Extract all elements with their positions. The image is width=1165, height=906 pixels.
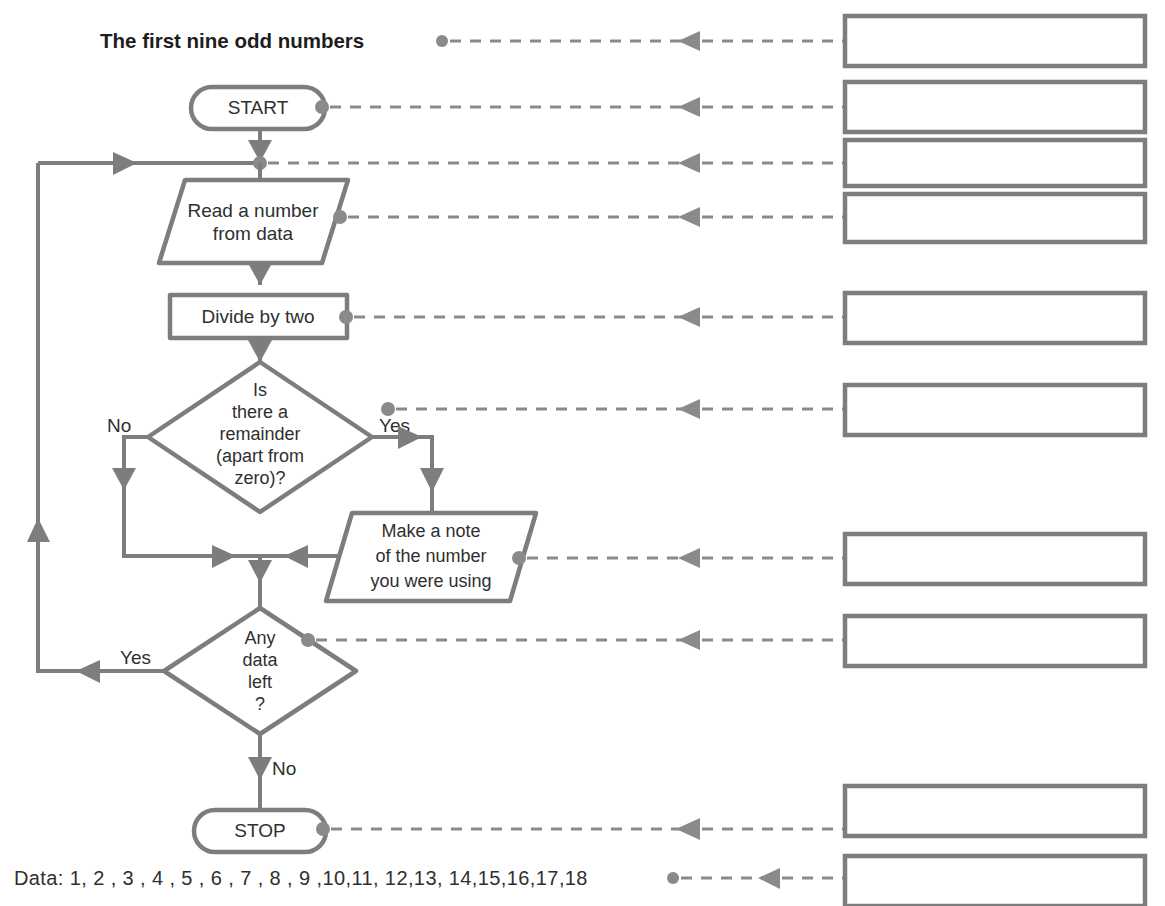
answer-box-3[interactable] [845, 140, 1145, 186]
flowchart-diagram: The first nine odd numbers START [0, 0, 1165, 906]
stop-label: STOP [234, 820, 285, 841]
leader-arrow-start [678, 97, 700, 117]
leader-dot-remainder [381, 402, 395, 416]
edge-divide-to-remainder [248, 338, 272, 362]
edge-note-to-merge [260, 545, 339, 568]
leader-junction [268, 153, 843, 173]
edge-merge-to-anydata [248, 556, 272, 608]
read-label-line1: Read a number [188, 200, 320, 221]
node-read: Read a number from data [159, 180, 348, 263]
branch-label-anydata-yes: Yes [120, 647, 151, 668]
remainder-label-line2: there a [232, 402, 289, 422]
arrow-merge-anydata [248, 560, 272, 583]
leader-arrow-junction [678, 153, 700, 173]
arrow-loop-up [27, 518, 50, 542]
page-title: The first nine odd numbers [100, 29, 364, 52]
arrow-read-divide [248, 263, 272, 285]
branch-label-remainder-no: No [107, 415, 131, 436]
leader-arrow-read [678, 207, 700, 227]
node-stop: STOP [194, 810, 326, 852]
edge-anydata-no [248, 734, 272, 812]
edge-anydata-yes-loop [27, 163, 164, 683]
leader-arrow-divide [678, 307, 700, 327]
arrow-remainder-no-down [112, 468, 136, 490]
remainder-label-line1: Is [253, 380, 267, 400]
note-label-line2: of the number [375, 546, 486, 566]
leader-dot-note [512, 551, 526, 565]
node-anydata: Any data left ? [164, 608, 356, 734]
remainder-label-line5: zero)? [234, 468, 285, 488]
flowchart-worksheet-page: The first nine odd numbers START [0, 0, 1165, 906]
remainder-label-line3: remainder [219, 424, 300, 444]
anydata-label-line3: left [248, 672, 272, 692]
branch-label-anydata-no: No [272, 758, 296, 779]
answer-box-list [845, 16, 1145, 906]
divide-label: Divide by two [202, 306, 315, 327]
loop-back-top-rail [38, 152, 267, 175]
loop-top-arrow [113, 152, 137, 175]
answer-box-7[interactable] [845, 534, 1145, 584]
remainder-label-line4: (apart from [216, 446, 304, 466]
leader-arrow-title [678, 31, 700, 51]
leader-anydata [301, 630, 843, 650]
arrow-anydata-yes-left [76, 660, 100, 683]
arrow-remainder-yes-down [420, 468, 444, 492]
answer-box-8[interactable] [845, 616, 1145, 666]
node-divide: Divide by two [170, 295, 347, 338]
leader-dot-start [315, 100, 329, 114]
leader-arrow-note [678, 548, 700, 568]
leader-arrow-stop [676, 818, 700, 840]
answer-box-1[interactable] [845, 16, 1145, 66]
arrow-remainder-no-merge [212, 545, 236, 568]
node-remainder: Is there a remainder (apart from zero)? [148, 362, 372, 512]
leader-arrow-data [758, 868, 780, 889]
read-label-line2: from data [213, 223, 294, 244]
anydata-label-line2: data [242, 650, 278, 670]
start-label: START [228, 97, 289, 118]
edge-remainder-yes [372, 426, 444, 512]
arrow-remainder-yes-right [398, 426, 422, 449]
leader-read [333, 207, 843, 227]
note-label-line3: you were using [370, 571, 491, 591]
note-label-line1: Make a note [381, 521, 480, 541]
arrow-anydata-no [248, 757, 272, 780]
anydata-label-line4: ? [255, 694, 265, 714]
leader-data [667, 868, 843, 889]
leader-note [512, 548, 843, 568]
data-list-label: Data: 1, 2 , 3 , 4 , 5 , 6 , 7 , 8 , 9 ,… [14, 867, 588, 889]
answer-box-5[interactable] [845, 293, 1145, 343]
node-start: START [191, 87, 325, 129]
node-note: Make a note of the number you were using [326, 513, 536, 601]
read-shape [159, 180, 348, 263]
leader-arrow-anydata [678, 630, 700, 650]
arrow-divide-remainder [248, 340, 272, 362]
leader-title [436, 31, 843, 51]
edge-read-to-divide [248, 263, 272, 285]
edge-line-anydata-loop [38, 163, 164, 671]
answer-box-4[interactable] [845, 194, 1145, 242]
leader-dot-read [333, 210, 347, 224]
answer-box-2[interactable] [845, 82, 1145, 132]
leader-arrow-remainder [678, 399, 700, 419]
arrow-note-merge [284, 545, 308, 568]
answer-box-6[interactable] [845, 385, 1145, 435]
answer-box-9[interactable] [845, 786, 1145, 836]
edge-line-remainder-yes [372, 437, 432, 512]
leader-dot-anydata [301, 633, 315, 647]
anydata-label-line1: Any [244, 628, 275, 648]
leader-dot-divide [339, 310, 353, 324]
answer-box-10[interactable] [845, 856, 1145, 906]
leader-remainder [381, 399, 843, 419]
leader-divide [339, 307, 843, 327]
leader-start [315, 97, 843, 117]
leader-dot-stop [316, 822, 330, 836]
leader-stop [316, 818, 843, 840]
leader-dot-title [436, 35, 448, 47]
leader-dot-data [667, 872, 679, 884]
